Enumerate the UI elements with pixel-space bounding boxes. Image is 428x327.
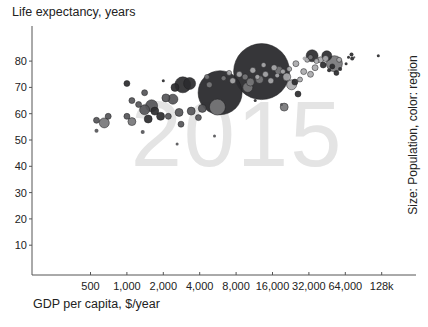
x-tick-label: 2,000 [150, 280, 178, 292]
country-bubble[interactable] [377, 54, 380, 57]
country-bubble[interactable] [176, 142, 179, 145]
country-bubble[interactable] [198, 104, 206, 112]
country-bubble[interactable] [227, 70, 232, 75]
country-bubble[interactable] [280, 69, 285, 74]
country-bubble[interactable] [195, 115, 201, 121]
country-bubble[interactable] [162, 94, 170, 102]
country-bubble[interactable] [303, 57, 307, 61]
country-bubble[interactable] [350, 53, 354, 57]
country-bubble[interactable] [263, 71, 269, 77]
country-bubble[interactable] [178, 121, 184, 127]
country-bubble[interactable] [323, 56, 329, 62]
country-bubble[interactable] [136, 102, 142, 108]
country-bubble[interactable] [105, 113, 111, 119]
country-bubble[interactable] [236, 71, 242, 77]
country-bubble[interactable] [314, 59, 319, 64]
country-bubble[interactable] [141, 130, 145, 134]
country-bubble[interactable] [175, 108, 183, 116]
x-tick-label: 500 [81, 280, 99, 292]
y-tick-label: 20 [15, 213, 27, 225]
y-tick-label: 70 [15, 81, 27, 93]
country-bubble[interactable] [165, 113, 171, 119]
country-bubble[interactable] [187, 107, 195, 115]
plot-area: 2015 10203040506070805001,0002,0004,0008… [0, 0, 428, 327]
country-bubble[interactable] [271, 65, 277, 71]
y-tick-label: 30 [15, 187, 27, 199]
country-bubble[interactable] [246, 78, 254, 86]
country-bubble[interactable] [205, 74, 210, 79]
country-bubble[interactable] [250, 67, 256, 73]
country-bubble[interactable] [144, 115, 152, 123]
country-bubble[interactable] [184, 78, 196, 90]
country-bubble[interactable] [254, 99, 257, 102]
legend-note: Size: Population, color: region [406, 55, 420, 214]
country-bubble[interactable] [345, 62, 348, 65]
country-bubble[interactable] [124, 81, 130, 87]
x-tick-label: 128k [370, 280, 394, 292]
country-bubble[interactable] [338, 67, 342, 71]
country-bubble[interactable] [353, 56, 355, 58]
country-bubble[interactable] [213, 135, 216, 138]
country-bubble[interactable] [157, 112, 165, 120]
country-bubble[interactable] [128, 118, 136, 126]
x-tick-label: 1,000 [113, 280, 141, 292]
country-bubble[interactable] [298, 77, 303, 82]
country-bubble[interactable] [293, 61, 299, 67]
y-tick-label: 10 [15, 239, 27, 251]
country-bubble[interactable] [221, 76, 226, 81]
country-bubble[interactable] [209, 99, 225, 115]
country-bubble[interactable] [124, 113, 130, 119]
country-bubble[interactable] [347, 56, 350, 59]
y-tick-label: 50 [15, 134, 27, 146]
country-bubble[interactable] [287, 67, 292, 72]
country-bubble[interactable] [292, 79, 298, 85]
country-bubble[interactable] [230, 78, 236, 84]
y-tick-label: 80 [15, 55, 27, 67]
country-bubble[interactable] [95, 129, 99, 133]
y-axis-title: Life expectancy, years [12, 5, 135, 19]
country-bubble[interactable] [334, 70, 339, 75]
country-bubble[interactable] [330, 64, 335, 69]
y-tick-label: 40 [15, 160, 27, 172]
country-bubble[interactable] [280, 103, 283, 106]
country-bubble[interactable] [320, 62, 326, 68]
x-axis-title: GDP per capita, $/year [33, 297, 160, 311]
country-bubble[interactable] [142, 90, 148, 96]
x-tick-label: 8,000 [222, 280, 250, 292]
x-tick-label: 16,000 [256, 280, 290, 292]
country-bubble[interactable] [206, 82, 212, 88]
y-tick-label: 60 [15, 108, 27, 120]
country-bubble[interactable] [301, 69, 307, 75]
country-bubble[interactable] [337, 57, 342, 62]
x-tick-label: 64,000 [328, 280, 362, 292]
country-bubble[interactable] [268, 78, 274, 84]
country-bubble[interactable] [171, 83, 179, 91]
country-bubble[interactable] [94, 117, 100, 123]
country-bubble[interactable] [129, 98, 135, 104]
x-tick-label: 4,000 [186, 280, 214, 292]
country-bubble[interactable] [261, 63, 266, 68]
country-bubble[interactable] [295, 91, 301, 97]
x-tick-label: 32,000 [292, 280, 326, 292]
country-bubble[interactable] [162, 79, 165, 82]
bubble-chart: 2015 10203040506070805001,0002,0004,0008… [0, 0, 428, 327]
country-bubble[interactable] [308, 71, 314, 77]
country-bubble[interactable] [312, 65, 318, 71]
country-bubble[interactable] [308, 55, 313, 60]
country-bubble[interactable] [242, 74, 248, 80]
country-bubble[interactable] [255, 74, 260, 79]
country-bubble[interactable] [275, 74, 279, 78]
country-bubble[interactable] [327, 68, 331, 72]
